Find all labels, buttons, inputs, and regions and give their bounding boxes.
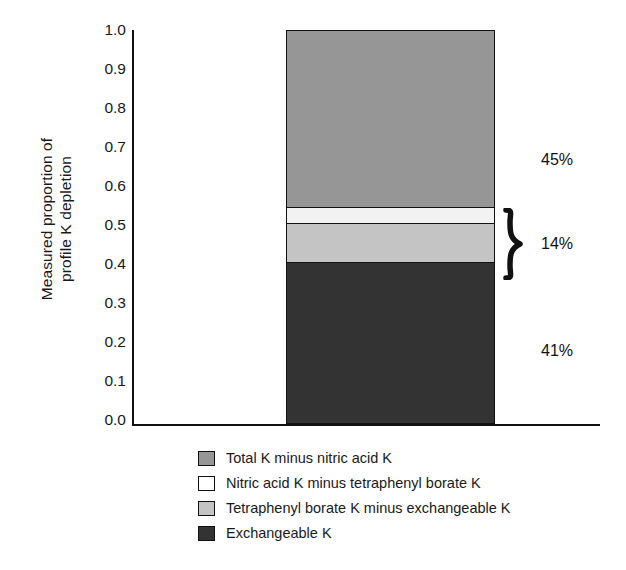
y-tick-label: 0.2	[78, 334, 126, 350]
y-tick-label: 0.7	[78, 139, 126, 155]
legend-swatch-icon	[198, 451, 215, 466]
annotation-percent-bottom: 41%	[541, 342, 573, 360]
legend-item-total-minus-nitric-acid-k: Total K minus nitric acid K	[198, 446, 618, 471]
bar-segment-tetraphenyl-borate-minus-exchangeable-k	[287, 223, 494, 262]
y-axis-title: Measured proportion of profile K depleti…	[37, 89, 75, 349]
y-axis-title-line-1: Measured proportion of	[37, 89, 56, 349]
y-tick-label: 0.9	[78, 61, 126, 77]
y-axis-tick-labels: 1.0 0.9 0.8 0.7 0.6 0.5 0.4 0.3 0.2 0.1 …	[78, 22, 126, 428]
y-tick-label: 0.3	[78, 295, 126, 311]
plot-area	[133, 30, 600, 424]
stacked-bar-chart: Measured proportion of profile K depleti…	[0, 0, 626, 570]
legend-item-tetraphenyl-borate-minus-exchangeable-k: Tetraphenyl borate K minus exchangeable …	[198, 496, 618, 521]
y-tick-label: 0.1	[78, 373, 126, 389]
legend-item-nitric-acid-minus-tetraphenyl-borate-k: Nitric acid K minus tetraphenyl borate K	[198, 471, 618, 496]
legend-item-label: Tetraphenyl borate K minus exchangeable …	[226, 500, 511, 517]
curly-brace-icon	[503, 208, 525, 280]
annotation-percent-middle: 14%	[541, 235, 573, 253]
x-axis-line	[132, 424, 600, 426]
y-tick-label: 1.0	[78, 22, 126, 38]
legend-item-label: Nitric acid K minus tetraphenyl borate K	[226, 475, 481, 492]
y-axis-title-line-2: profile K depletion	[56, 89, 75, 349]
y-tick-label: 0.6	[78, 178, 126, 194]
legend-item-label: Exchangeable K	[226, 525, 332, 542]
y-tick-label: 0.8	[78, 100, 126, 116]
legend-item-exchangeable-k: Exchangeable K	[198, 521, 618, 546]
legend-swatch-icon	[198, 476, 215, 491]
legend-swatch-icon	[198, 526, 215, 541]
legend-swatch-icon	[198, 501, 215, 516]
y-tick-label: 0.5	[78, 217, 126, 233]
legend-item-label: Total K minus nitric acid K	[226, 450, 392, 467]
annotation-percent-top: 45%	[541, 151, 573, 169]
y-tick-label: 0.4	[78, 256, 126, 272]
bar-segment-exchangeable-k	[287, 262, 494, 423]
stacked-bar	[286, 30, 495, 424]
y-tick-label: 0.0	[78, 412, 126, 428]
legend: Total K minus nitric acid K Nitric acid …	[198, 446, 618, 546]
bar-segment-total-minus-nitric-acid-k	[287, 31, 494, 207]
bar-segment-nitric-acid-minus-tetraphenyl-borate-k	[287, 207, 494, 223]
